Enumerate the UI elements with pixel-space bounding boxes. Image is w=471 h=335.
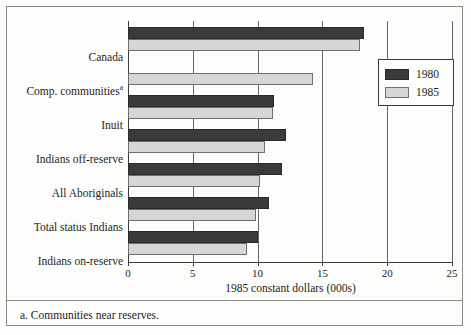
bar-total-status-indians-1985 bbox=[128, 209, 256, 221]
x-axis-line bbox=[128, 262, 453, 263]
category-label-comp-communities: Comp. communitiesa bbox=[6, 85, 128, 97]
category-label-inuit: Inuit bbox=[6, 119, 128, 131]
tick-mark-25 bbox=[452, 262, 453, 266]
bar-comp-communities-1985 bbox=[128, 73, 313, 85]
tick-mark-20 bbox=[387, 262, 388, 266]
bar-indians-off-reserve-1985 bbox=[128, 141, 265, 153]
footnote-text: a. Communities near reserves. bbox=[20, 309, 159, 321]
bar-indians-on-reserve-1985 bbox=[128, 243, 247, 255]
figure-container: Canada Comp. communitiesa Inuit Indians … bbox=[0, 0, 471, 335]
legend-entry-1980: 1980 bbox=[385, 65, 453, 83]
tick-label-0: 0 bbox=[113, 267, 143, 280]
legend-swatch-1985-icon bbox=[385, 87, 409, 98]
category-label-total-status-indians: Total status Indians bbox=[6, 221, 128, 233]
bar-inuit-1985 bbox=[128, 107, 273, 119]
legend-label-1980: 1980 bbox=[416, 68, 439, 80]
gridline-20 bbox=[387, 21, 388, 262]
tick-label-10: 10 bbox=[243, 267, 273, 280]
gridline-25 bbox=[452, 21, 453, 262]
tick-mark-10 bbox=[258, 262, 259, 266]
bar-indians-on-reserve-1980 bbox=[128, 231, 258, 243]
legend: 1980 1985 bbox=[378, 59, 454, 106]
category-label-all-aboriginals: All Aboriginals bbox=[6, 187, 128, 199]
bar-indians-off-reserve-1980 bbox=[128, 129, 286, 141]
bar-all-aboriginals-1985 bbox=[128, 175, 260, 187]
legend-label-1985: 1985 bbox=[416, 86, 439, 98]
bar-canada-1985 bbox=[128, 39, 360, 51]
plot-area bbox=[128, 21, 452, 262]
bar-canada-1980 bbox=[128, 27, 364, 39]
tick-mark-5 bbox=[193, 262, 194, 266]
category-axis-labels: Canada Comp. communitiesa Inuit Indians … bbox=[0, 21, 128, 262]
category-label-indians-on-reserve: Indians on-reserve bbox=[6, 255, 128, 267]
gridline-15 bbox=[322, 21, 323, 262]
x-axis-title: 1985 constant dollars (000s) bbox=[128, 282, 453, 294]
legend-swatch-1980-icon bbox=[385, 69, 409, 80]
bar-inuit-1980 bbox=[128, 95, 274, 107]
legend-entry-1985: 1985 bbox=[385, 83, 453, 101]
bar-all-aboriginals-1980 bbox=[128, 163, 282, 175]
footnote-divider bbox=[7, 300, 462, 301]
tick-label-20: 20 bbox=[372, 267, 402, 280]
category-label-indians-off-reserve: Indians off-reserve bbox=[6, 153, 128, 165]
tick-label-15: 15 bbox=[307, 267, 337, 280]
tick-label-25: 25 bbox=[437, 267, 467, 280]
tick-mark-0 bbox=[128, 262, 129, 266]
category-label-canada: Canada bbox=[6, 51, 128, 63]
tick-mark-15 bbox=[322, 262, 323, 266]
tick-label-5: 5 bbox=[178, 267, 208, 280]
bar-total-status-indians-1980 bbox=[128, 197, 269, 209]
